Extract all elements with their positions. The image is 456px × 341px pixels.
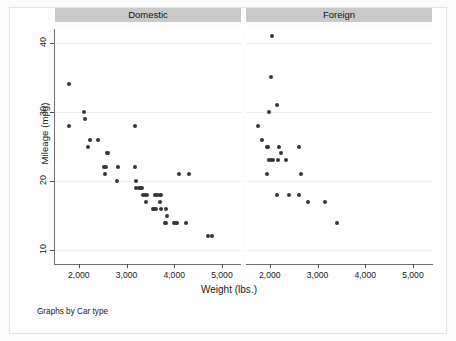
x-tick-mark <box>127 264 128 268</box>
data-point <box>96 138 100 142</box>
data-point <box>159 193 163 197</box>
data-point <box>134 179 138 183</box>
data-point <box>275 193 279 197</box>
data-point <box>184 221 188 225</box>
x-tick-label: 4,000 <box>154 270 194 280</box>
y-tick-label: 40 <box>38 31 48 53</box>
gridline <box>246 181 432 182</box>
gridline <box>246 250 432 251</box>
gridline <box>246 43 432 44</box>
x-tick-label: 2,000 <box>59 270 99 280</box>
panel-domestic-plot <box>55 29 241 264</box>
data-point <box>133 165 137 169</box>
x-tick-mark <box>365 264 366 268</box>
data-point <box>116 165 120 169</box>
panel-foreign <box>246 29 432 264</box>
gridline <box>55 250 241 251</box>
data-point <box>297 145 301 149</box>
x-tick-label: 5,000 <box>393 270 433 280</box>
x-tick-label: 3,000 <box>298 270 338 280</box>
gridline <box>246 112 432 113</box>
data-point <box>106 151 110 155</box>
data-point <box>145 193 149 197</box>
data-point <box>256 124 260 128</box>
x-tick-mark <box>79 264 80 268</box>
data-point <box>265 172 269 176</box>
data-point <box>260 138 264 142</box>
data-point <box>271 158 275 162</box>
data-point <box>67 82 71 86</box>
y-tick-label: 30 <box>38 100 48 122</box>
data-point <box>275 103 279 107</box>
data-point <box>177 172 181 176</box>
data-point <box>287 193 291 197</box>
data-point <box>164 221 168 225</box>
data-point <box>267 110 271 114</box>
data-point <box>335 221 339 225</box>
y-tick-label: 10 <box>38 238 48 260</box>
data-point <box>88 138 92 142</box>
data-point <box>133 124 137 128</box>
data-point <box>306 200 310 204</box>
data-point <box>279 151 283 155</box>
data-point <box>86 145 90 149</box>
data-point <box>165 214 169 218</box>
data-point <box>297 193 301 197</box>
data-point <box>323 200 327 204</box>
x-tick-label: 4,000 <box>345 270 385 280</box>
data-point <box>206 234 210 238</box>
gridline <box>55 43 241 44</box>
data-point <box>210 234 214 238</box>
x-tick-mark <box>222 264 223 268</box>
panel-header-domestic: Domestic <box>55 8 241 22</box>
x-tick-mark <box>318 264 319 268</box>
x-tick-label: 3,000 <box>107 270 147 280</box>
graph-root: Mileage (mpg) 10203040 Domestic Foreign … <box>0 0 456 341</box>
data-point <box>266 145 270 149</box>
data-point <box>158 200 162 204</box>
panel-domestic <box>55 29 241 264</box>
data-point <box>115 179 119 183</box>
data-point <box>104 165 108 169</box>
data-point <box>175 221 179 225</box>
x-axis-line-foreign <box>246 264 433 265</box>
panel-foreign-plot <box>246 29 432 264</box>
data-point <box>144 200 148 204</box>
data-point <box>83 117 87 121</box>
x-tick-mark <box>270 264 271 268</box>
data-point <box>82 110 86 114</box>
data-point <box>67 124 71 128</box>
data-point <box>299 172 303 176</box>
data-point <box>284 158 288 162</box>
data-point <box>164 207 168 211</box>
data-point <box>140 186 144 190</box>
gridline <box>55 181 241 182</box>
data-point <box>269 75 273 79</box>
data-point <box>103 172 107 176</box>
x-tick-mark <box>174 264 175 268</box>
panel-header-foreign: Foreign <box>246 8 432 22</box>
footer-note: Graphs by Car type <box>37 307 108 316</box>
data-point <box>159 207 163 211</box>
data-point <box>277 145 281 149</box>
x-tick-label: 2,000 <box>250 270 290 280</box>
graph-frame: Mileage (mpg) 10203040 Domestic Foreign … <box>9 7 447 334</box>
data-point <box>270 34 274 38</box>
data-point <box>276 158 280 162</box>
x-axis-title: Weight (lbs.) <box>10 284 448 295</box>
y-tick-label: 20 <box>38 169 48 191</box>
x-tick-mark <box>413 264 414 268</box>
x-axis-line-domestic <box>54 264 241 265</box>
data-point <box>187 172 191 176</box>
data-point <box>154 207 158 211</box>
x-tick-label: 5,000 <box>202 270 242 280</box>
